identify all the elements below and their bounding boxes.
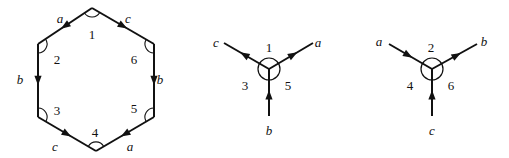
edge-label-b: b [17, 72, 24, 87]
branch-label-c: c [429, 123, 435, 138]
branch-label-b: b [266, 123, 273, 138]
arrow-icon [61, 129, 71, 137]
edge-label-b: b [157, 72, 164, 87]
arrow-icon [265, 90, 272, 100]
arrow-icon [451, 53, 461, 61]
arrow-icon [121, 129, 131, 137]
sector-label-3: 3 [242, 78, 249, 93]
arrow-icon [287, 52, 297, 60]
arrow-icon [240, 52, 250, 60]
corner-label-3: 3 [54, 103, 61, 118]
branch-label-a: a [315, 35, 322, 50]
corner-angle-arc [88, 142, 104, 147]
branch-label-b: b [481, 34, 488, 49]
hexagon-polygon-schema: acbbca123456 [17, 8, 164, 154]
vertex-link-diagram-2-4-6: abc246 [376, 34, 488, 138]
sector-label-6: 6 [448, 78, 455, 93]
arrow-icon [34, 76, 41, 86]
edge-label-c: c [52, 139, 58, 154]
vertex-link-diagram-1-3-5: cab135 [213, 35, 322, 138]
branch-label-a: a [376, 34, 383, 49]
edge-label-a: a [127, 139, 134, 154]
corner-label-5: 5 [131, 101, 138, 116]
corner-label-2: 2 [54, 52, 61, 67]
arrow-icon [402, 50, 412, 58]
sector-label-1: 1 [266, 40, 273, 55]
arrow-icon [428, 90, 435, 100]
corner-label-1: 1 [89, 27, 96, 42]
sector-label-2: 2 [428, 40, 435, 55]
sector-label-4: 4 [407, 78, 414, 93]
corner-label-6: 6 [131, 52, 138, 67]
corner-angle-arc [85, 13, 100, 18]
sector-label-5: 5 [285, 78, 292, 93]
corner-label-4: 4 [92, 125, 99, 140]
edge-label-a: a [57, 11, 64, 26]
edge-label-c: c [125, 11, 131, 26]
diagram-canvas: acbbca123456 cab135 abc246 [0, 0, 509, 158]
branch-label-c: c [213, 35, 219, 50]
